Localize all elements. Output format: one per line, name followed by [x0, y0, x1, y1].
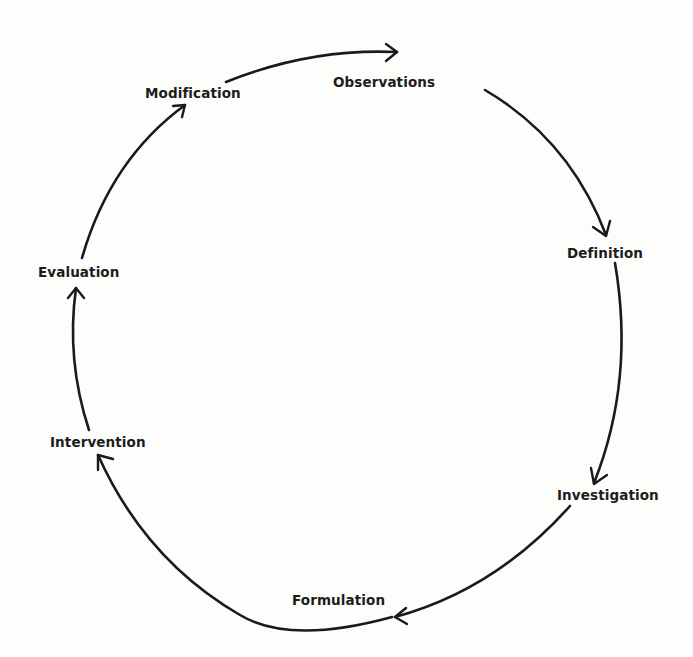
arrow-definition-to-investigation	[591, 263, 622, 484]
arrow-intervention-to-evaluation	[68, 288, 89, 430]
stage-investigation: Investigation	[557, 487, 659, 503]
stage-observations: Observations	[333, 74, 435, 90]
arrow-evaluation-to-modification	[82, 105, 185, 258]
stage-definition: Definition	[567, 245, 643, 261]
stage-formulation: Formulation	[292, 592, 385, 608]
arrow-observations-to-definition	[485, 90, 610, 236]
stage-modification: Modification	[145, 85, 241, 101]
stage-intervention: Intervention	[50, 434, 146, 450]
arrow-investigation-to-formulation	[395, 506, 570, 624]
stage-evaluation: Evaluation	[38, 264, 119, 280]
cycle-diagram	[0, 0, 693, 657]
